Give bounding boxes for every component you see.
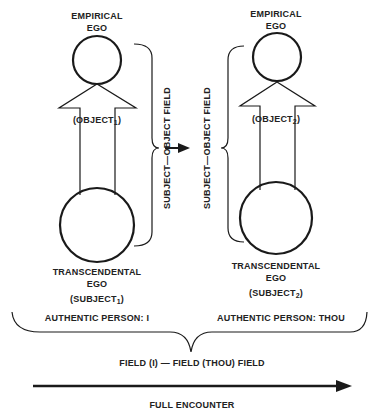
left-empirical-ego-label: EMPIRICAL EGO bbox=[57, 10, 137, 34]
right-upward-arrow bbox=[240, 82, 315, 190]
left-subject-label: (SUBJECT1) bbox=[47, 294, 147, 304]
right-empirical-line1: EMPIRICAL bbox=[236, 8, 316, 20]
full-encounter-caption: FULL ENCOUNTER bbox=[137, 400, 247, 410]
right-empirical-ego-circle bbox=[253, 33, 301, 81]
right-empirical-line2: EGO bbox=[236, 20, 316, 32]
left-transcendental-line2: EGO bbox=[37, 278, 157, 290]
left-transcendental-line1: TRANSCENDENTAL bbox=[37, 266, 157, 278]
left-transcendental-ego-label: TRANSCENDENTAL EGO bbox=[37, 266, 157, 290]
left-field-brace bbox=[134, 44, 159, 246]
left-empirical-line1: EMPIRICAL bbox=[57, 10, 137, 22]
right-field-label: SUBJECT—OBJECT FIELD bbox=[202, 83, 212, 213]
left-person-figure bbox=[59, 36, 159, 262]
right-transcendental-ego-circle bbox=[240, 182, 312, 254]
right-transcendental-line2: EGO bbox=[216, 272, 336, 284]
right-authentic-person-label: AUTHENTIC PERSON: THOU bbox=[206, 313, 356, 323]
left-authentic-person-label: AUTHENTIC PERSON: I bbox=[27, 313, 167, 323]
left-transcendental-ego-circle bbox=[60, 188, 134, 262]
left-upward-arrow bbox=[59, 84, 136, 195]
combined-field-label: FIELD (I) — FIELD (THOU) FIELD bbox=[87, 358, 297, 368]
right-subject-label: (SUBJECT2) bbox=[226, 288, 326, 298]
left-empirical-ego-circle bbox=[73, 36, 121, 84]
right-empirical-ego-label: EMPIRICAL EGO bbox=[236, 8, 316, 32]
right-person-figure bbox=[221, 33, 315, 254]
right-transcendental-line1: TRANSCENDENTAL bbox=[216, 260, 336, 272]
left-object-label: (OBJECT1) bbox=[57, 115, 137, 125]
right-transcendental-ego-label: TRANSCENDENTAL EGO bbox=[216, 260, 336, 284]
left-field-label: SUBJECT—OBJECT FIELD bbox=[162, 83, 172, 213]
encounter-arrow bbox=[33, 380, 352, 392]
left-empirical-line2: EGO bbox=[57, 22, 137, 34]
right-object-label: (OBJECT2) bbox=[236, 114, 316, 124]
